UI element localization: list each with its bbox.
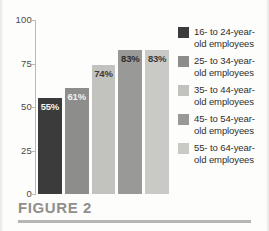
- legend-item-label: 16- to 24-year-old employees: [194, 26, 266, 49]
- bar[interactable]: 55%: [38, 98, 62, 194]
- figure-caption: FIGURE 2: [18, 199, 92, 216]
- legend-item-label: 45- to 54-year-old employees: [194, 113, 266, 136]
- y-axis-tick-mark: [31, 64, 36, 65]
- legend-swatch-icon: [178, 114, 189, 125]
- y-axis-tick-label: 100: [16, 14, 32, 25]
- legend-swatch-icon: [178, 27, 189, 38]
- y-axis-tick-mark: [31, 20, 36, 21]
- y-axis-tick-mark: [31, 151, 36, 152]
- legend-item-label: 25- to 34-year-old employees: [194, 55, 266, 78]
- bar-value-label: 74%: [92, 68, 116, 79]
- bar[interactable]: 61%: [65, 88, 89, 194]
- legend-swatch-icon: [178, 143, 189, 154]
- legend-item[interactable]: 45- to 54-year-old employees: [178, 113, 266, 136]
- bar-value-label: 55%: [38, 101, 62, 112]
- bar[interactable]: 83%: [118, 50, 142, 194]
- caption-rule: [18, 220, 251, 223]
- bar-value-label: 61%: [65, 91, 89, 102]
- bar-chart: 0255075100 55%61%74%83%83%: [0, 0, 175, 200]
- chart-legend: 16- to 24-year-old employees25- to 34-ye…: [178, 26, 266, 171]
- figure-container: 0255075100 55%61%74%83%83% 16- to 24-yea…: [0, 0, 269, 231]
- legend-item[interactable]: 25- to 34-year-old employees: [178, 55, 266, 78]
- legend-item-label: 55- to 64-year-old employees: [194, 142, 266, 165]
- page-edge-right: [266, 0, 269, 231]
- legend-item[interactable]: 16- to 24-year-old employees: [178, 26, 266, 49]
- y-axis-tick-mark: [31, 194, 36, 195]
- plot-area: 55%61%74%83%83%: [38, 20, 169, 194]
- bar-group: 55%61%74%83%83%: [38, 20, 169, 194]
- bar[interactable]: 74%: [92, 65, 116, 194]
- legend-item[interactable]: 35- to 44-year-old employees: [178, 84, 266, 107]
- bar-value-label: 83%: [118, 53, 142, 64]
- y-axis-tick-mark: [31, 107, 36, 108]
- legend-swatch-icon: [178, 85, 189, 96]
- legend-item-label: 35- to 44-year-old employees: [194, 84, 266, 107]
- legend-swatch-icon: [178, 56, 189, 67]
- legend-item[interactable]: 55- to 64-year-old employees: [178, 142, 266, 165]
- bar[interactable]: 83%: [145, 50, 169, 194]
- bar-value-label: 83%: [145, 53, 169, 64]
